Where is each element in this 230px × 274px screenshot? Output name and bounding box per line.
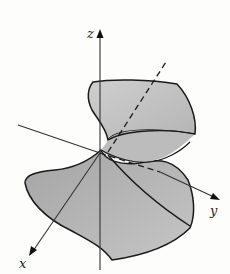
- z-axis-label: z: [87, 27, 94, 40]
- diagram-canvas: z y x: [0, 0, 230, 274]
- x-axis-label: x: [19, 257, 26, 270]
- y-axis-back: [18, 125, 100, 153]
- lower-surface-lobe: [25, 150, 194, 260]
- z-axis-arrowhead: [97, 29, 104, 38]
- y-axis-label: y: [210, 204, 217, 217]
- y-axis-arrowhead: [210, 193, 220, 200]
- saddle-surface-diagram: [0, 0, 230, 274]
